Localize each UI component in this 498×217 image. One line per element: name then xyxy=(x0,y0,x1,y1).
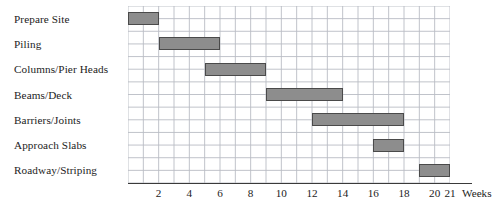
x-tick-label: 2 xyxy=(156,186,162,200)
task-label: Columns/Pier Heads xyxy=(14,63,126,75)
gantt-bar xyxy=(159,37,220,50)
gantt-bar xyxy=(128,12,159,25)
x-tick-label: 4 xyxy=(187,186,193,200)
x-axis-unit-label: Weeks xyxy=(462,186,492,200)
task-label: Beams/Deck xyxy=(14,89,126,101)
x-tick-label: 8 xyxy=(248,186,254,200)
bars-layer xyxy=(128,6,450,183)
x-tick-label: 10 xyxy=(276,186,287,200)
gantt-bar xyxy=(205,63,266,76)
task-label: Roadway/Striping xyxy=(14,164,126,176)
x-tick-label: 20 xyxy=(429,186,440,200)
x-tick-label: 12 xyxy=(306,186,317,200)
gantt-bar xyxy=(419,164,450,177)
task-label-column: Prepare SitePilingColumns/Pier HeadsBeam… xyxy=(0,0,126,217)
x-tick-label: 14 xyxy=(337,186,348,200)
gantt-bar xyxy=(266,88,343,101)
x-tick-label: 18 xyxy=(398,186,409,200)
gantt-bar xyxy=(312,113,404,126)
plot-area xyxy=(128,6,450,183)
x-axis-tick-labels: 246810121416182021Weeks xyxy=(0,186,498,208)
x-axis-line xyxy=(128,183,472,184)
x-tick-label: 6 xyxy=(217,186,223,200)
gantt-bar xyxy=(373,139,404,152)
task-label: Piling xyxy=(14,38,126,50)
x-tick-label: 16 xyxy=(368,186,379,200)
x-tick-label: 21 xyxy=(444,186,455,200)
task-label: Approach Slabs xyxy=(14,139,126,151)
task-label: Prepare Site xyxy=(14,13,126,25)
task-label: Barriers/Joints xyxy=(14,114,126,126)
gantt-chart: Prepare SitePilingColumns/Pier HeadsBeam… xyxy=(0,0,498,217)
